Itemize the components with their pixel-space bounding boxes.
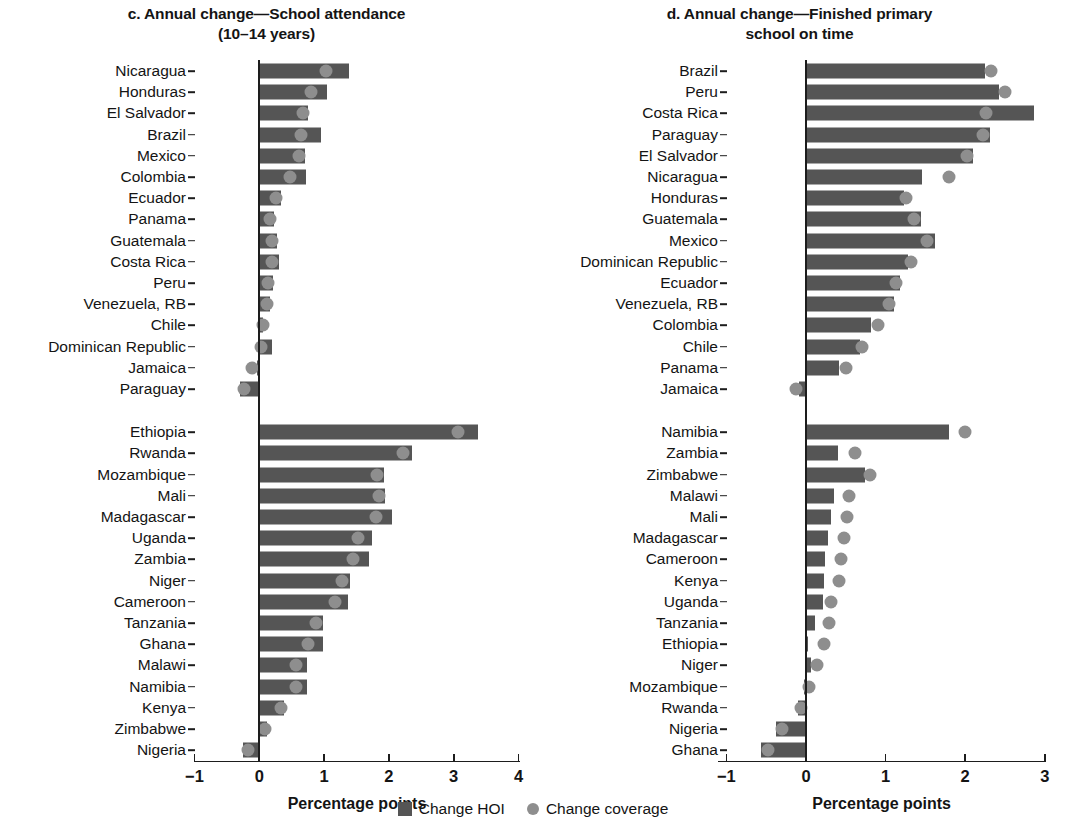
dot-change-coverage <box>290 680 303 693</box>
x-axis-tick <box>964 754 966 762</box>
category-label: Venezuela, RB <box>615 296 718 312</box>
axis-tick-mark <box>720 113 727 115</box>
chart-row: Costa Rica <box>0 251 533 273</box>
dot-change-coverage <box>301 638 314 651</box>
axis-tick-mark <box>188 728 195 730</box>
chart-row: Niger <box>0 570 533 592</box>
panel-d-title: d. Annual change—Finished primary school… <box>533 4 1066 44</box>
chart-row: Kenya <box>533 570 1066 592</box>
category-label: Malawi <box>670 488 718 504</box>
x-axis-tick <box>885 754 887 762</box>
axis-tick-mark <box>720 601 727 603</box>
bar-change-hoi <box>806 531 828 546</box>
chart-row: Colombia <box>533 314 1066 336</box>
x-axis-tick-label: 0 <box>801 767 810 786</box>
chart-row: Brazil <box>0 124 533 146</box>
chart-row: Venezuela, RB <box>0 293 533 315</box>
category-label: Uganda <box>132 530 186 546</box>
chart-row: Malawi <box>533 485 1066 507</box>
axis-tick-mark <box>720 240 727 242</box>
bar-change-hoi <box>806 488 834 503</box>
axis-tick-mark <box>188 176 195 178</box>
dot-change-coverage <box>959 426 972 439</box>
axis-tick-mark <box>188 601 195 603</box>
zero-baseline <box>258 60 260 761</box>
chart-row: Mexico <box>0 145 533 167</box>
bar-change-hoi <box>259 446 411 461</box>
x-axis-tick-label: 4 <box>514 767 523 786</box>
panel-d: d. Annual change—Finished primary school… <box>533 0 1066 790</box>
zero-baseline <box>805 60 807 761</box>
chart-row: El Salvador <box>0 102 533 124</box>
chart-row: Brazil <box>533 60 1066 82</box>
axis-tick-mark <box>720 559 727 561</box>
axis-tick-mark <box>720 728 727 730</box>
panel-d-title-line2: school on time <box>533 24 1066 44</box>
chart-row: Dominican Republic <box>533 251 1066 273</box>
axis-tick-mark <box>188 91 195 93</box>
dot-change-coverage <box>920 234 933 247</box>
category-label: Colombia <box>653 317 718 333</box>
category-label: Mozambique <box>97 467 186 483</box>
category-label: Nigeria <box>137 742 186 758</box>
chart-row: Peru <box>533 81 1066 103</box>
chart-row: Rwanda <box>533 697 1066 719</box>
category-label: Dominican Republic <box>48 339 186 355</box>
chart-row: Cameroon <box>533 548 1066 570</box>
axis-tick-mark <box>188 707 195 709</box>
axis-tick-mark <box>720 474 727 476</box>
panel-c-plot-area: NicaraguaHondurasEl SalvadorBrazilMexico… <box>0 60 533 732</box>
chart-row: Madagascar <box>0 506 533 528</box>
category-label: Brazil <box>147 127 186 143</box>
chart-row: Venezuela, RB <box>533 293 1066 315</box>
category-label: Nicaragua <box>647 169 718 185</box>
axis-tick-mark <box>188 282 195 284</box>
chart-row: Kenya <box>0 697 533 719</box>
bar-change-hoi <box>806 552 825 567</box>
axis-tick-mark <box>188 643 195 645</box>
dot-change-coverage <box>293 149 306 162</box>
dot-change-coverage <box>999 86 1012 99</box>
chart-row: Costa Rica <box>533 102 1066 124</box>
axis-tick-mark <box>720 516 727 518</box>
axis-tick-mark <box>720 176 727 178</box>
category-label: Ghana <box>139 636 186 652</box>
category-label: Nicaragua <box>115 63 186 79</box>
axis-tick-mark <box>188 665 195 667</box>
chart-row: Namibia <box>533 421 1066 443</box>
axis-tick-mark <box>720 453 727 455</box>
category-label: Paraguay <box>652 127 718 143</box>
x-axis-tick <box>388 754 390 762</box>
chart-row: Nicaragua <box>533 166 1066 188</box>
category-label: Cameroon <box>114 594 186 610</box>
category-label: Rwanda <box>661 700 718 716</box>
x-axis-line <box>718 761 1045 763</box>
dot-change-coverage <box>979 107 992 120</box>
bar-change-hoi <box>806 276 900 291</box>
bar-change-hoi <box>806 510 831 525</box>
axis-tick-mark <box>188 537 195 539</box>
dot-change-coverage <box>245 361 258 374</box>
x-axis-tick-label: 1 <box>881 767 890 786</box>
axis-tick-mark <box>188 325 195 327</box>
dot-change-coverage <box>369 511 382 524</box>
dot-change-coverage <box>262 277 275 290</box>
category-label: Ethiopia <box>130 424 186 440</box>
chart-row: Peru <box>0 272 533 294</box>
axis-tick-mark <box>720 367 727 369</box>
dot-change-coverage <box>761 744 774 757</box>
x-axis-tick-label: 0 <box>255 767 264 786</box>
dot-change-coverage <box>270 192 283 205</box>
category-label: Honduras <box>651 190 718 206</box>
dot-change-coverage <box>241 744 254 757</box>
axis-tick-mark <box>188 474 195 476</box>
x-axis-tick-label: 2 <box>961 767 970 786</box>
chart-row: Malawi <box>0 654 533 676</box>
chart-row: Dominican Republic <box>0 336 533 358</box>
dot-change-coverage <box>274 701 287 714</box>
dot-change-coverage <box>908 213 921 226</box>
bar-change-hoi <box>806 233 935 248</box>
chart-row: Guatemala <box>0 230 533 252</box>
axis-tick-mark <box>188 580 195 582</box>
dot-change-coverage <box>297 107 310 120</box>
